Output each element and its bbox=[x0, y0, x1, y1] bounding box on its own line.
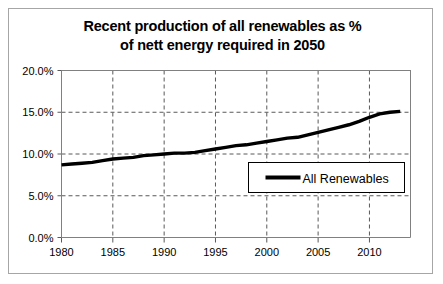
y-axis-ticks-group: 0.0%5.0%10.0%15.0%20.0% bbox=[22, 65, 61, 244]
y-axis-tick-label: 5.0% bbox=[28, 190, 53, 202]
x-axis-tick-label: 1985 bbox=[101, 246, 125, 258]
x-axis-tick-label: 1990 bbox=[152, 246, 176, 258]
y-axis-tick-label: 10.0% bbox=[22, 148, 53, 160]
chart-legend: All Renewables bbox=[249, 163, 405, 193]
y-axis-tick-label: 20.0% bbox=[22, 65, 53, 77]
x-axis-tick-label: 1995 bbox=[203, 246, 227, 258]
x-axis-tick-label: 2000 bbox=[255, 246, 279, 258]
gridlines-group bbox=[62, 71, 411, 238]
chart-plot-area: 0.0%5.0%10.0%15.0%20.0% 1980198519901995… bbox=[0, 0, 443, 284]
chart-page: Recent production of all renewables as %… bbox=[0, 0, 443, 284]
x-axis-tick-label: 1980 bbox=[49, 246, 73, 258]
y-axis-tick-label: 15.0% bbox=[22, 106, 53, 118]
data-series-group bbox=[62, 111, 401, 164]
series-line-all-renewables bbox=[62, 111, 401, 164]
x-axis-tick-label: 2005 bbox=[306, 246, 330, 258]
x-axis-ticks-group: 1980198519901995200020052010 bbox=[49, 238, 381, 258]
y-axis-tick-label: 0.0% bbox=[28, 232, 53, 244]
x-axis-tick-label: 2010 bbox=[357, 246, 381, 258]
legend-entry-label: All Renewables bbox=[303, 172, 389, 186]
